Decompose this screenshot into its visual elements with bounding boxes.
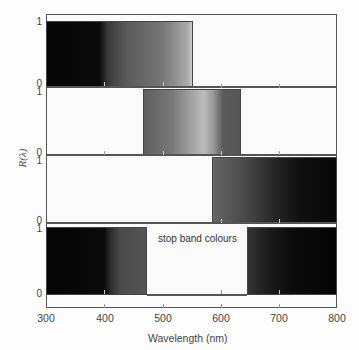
reflectance-band-left xyxy=(46,227,147,295)
x-tickmark xyxy=(279,290,280,294)
reflectance-band xyxy=(212,157,337,223)
x-tickmark xyxy=(221,290,222,294)
reflectance-band-right xyxy=(247,227,337,295)
panel-baseline xyxy=(46,222,337,224)
x-tickmark xyxy=(221,84,222,88)
panel-1 xyxy=(46,20,337,87)
reflectance-band xyxy=(46,21,193,87)
x-tickmark xyxy=(104,82,105,86)
x-tickmark xyxy=(279,219,280,223)
x-tick-600: 600 xyxy=(206,312,236,324)
x-tickmark xyxy=(221,151,222,155)
x-tickmark xyxy=(104,304,105,308)
stop-band-annotation: stop band colours xyxy=(158,233,237,244)
x-tick-700: 700 xyxy=(264,312,294,324)
x-tick-500: 500 xyxy=(148,312,178,324)
x-tickmark xyxy=(221,304,222,308)
x-tickmark xyxy=(163,151,164,155)
x-tick-300: 300 xyxy=(31,312,61,324)
x-tick-800: 800 xyxy=(322,312,352,324)
x-tickmark xyxy=(163,82,164,86)
x-tick-400: 400 xyxy=(90,312,120,324)
y-tick-0: 0 xyxy=(28,289,42,299)
x-tickmark xyxy=(279,151,280,155)
x-tickmark xyxy=(163,304,164,308)
x-tickmark xyxy=(104,290,105,294)
y-tick-1: 1 xyxy=(28,17,42,27)
x-axis-label: Wavelength (nm) xyxy=(148,332,228,344)
x-tickmark xyxy=(279,84,280,88)
panel-3 xyxy=(46,156,337,223)
x-tickmark xyxy=(221,219,222,223)
y-tick-1: 1 xyxy=(28,156,42,166)
panel-2 xyxy=(46,88,337,155)
y-axis-label: R(λ) xyxy=(16,138,28,178)
x-tickmark xyxy=(104,151,105,155)
y-tick-1: 1 xyxy=(28,224,42,234)
panel-baseline xyxy=(147,294,247,296)
x-tickmark xyxy=(279,304,280,308)
y-tick-1: 1 xyxy=(28,87,42,97)
reflectance-band xyxy=(143,89,241,155)
